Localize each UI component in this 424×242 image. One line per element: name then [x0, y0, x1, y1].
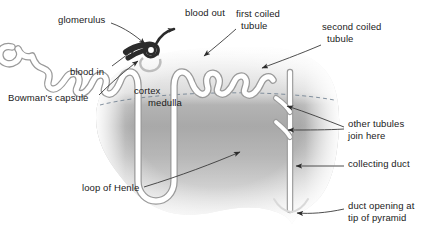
- label-first-coiled-tubule: first coiled: [236, 8, 280, 19]
- glomerulus-knot-dot: [147, 46, 155, 54]
- label-bowmans-capsule: Bowman's capsule: [8, 92, 89, 103]
- label-other-tubules: other tubules: [348, 118, 404, 129]
- label-blood-in: blood in: [70, 66, 104, 77]
- label-blood-out: blood out: [185, 7, 225, 18]
- label-other-tubules-line2: join here: [348, 130, 385, 141]
- label-second-coiled-tubule-line2: tubule: [327, 33, 353, 44]
- label-second-coiled-tubule: second coiled: [322, 21, 381, 32]
- label-medulla: medulla: [148, 97, 182, 108]
- label-collecting-duct: collecting duct: [348, 158, 410, 169]
- label-duct-opening-line2: tip of pyramid: [348, 212, 406, 223]
- nephron-diagram-page: glomerulus blood out first coiled tubule…: [0, 0, 424, 242]
- label-duct-opening: duct opening at: [348, 200, 414, 211]
- label-cortex: cortex: [134, 85, 160, 96]
- label-glomerulus: glomerulus: [58, 14, 105, 25]
- efferent-arteriole: [156, 29, 174, 44]
- label-loop-of-henle: loop of Henle: [82, 182, 139, 193]
- label-first-coiled-tubule-line2: tubule: [241, 20, 267, 31]
- leader-glomerulus: [111, 23, 145, 44]
